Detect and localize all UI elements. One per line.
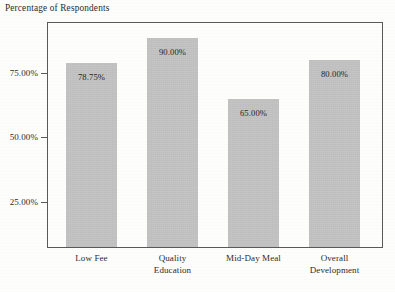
bar-value-label-low-fee: 78.75%: [66, 72, 117, 82]
bar-quality-education: 90.00%: [147, 38, 198, 247]
y-tick-mark-50: [41, 137, 48, 138]
x-axis-label-quality-education: Quality Education: [132, 253, 213, 276]
y-tick-label-75: 75.00%: [10, 68, 38, 78]
bar-overall-development: 80.00%: [309, 60, 360, 247]
y-tick-mark-25: [41, 202, 48, 203]
chart-title: Percentage of Respondents: [5, 3, 109, 13]
bar-mid-day-meal: 65.00%: [228, 99, 279, 247]
y-tick-label-50: 50.00%: [10, 132, 38, 142]
bar-value-label-overall-development: 80.00%: [309, 69, 360, 79]
y-tick-label-25: 25.00%: [10, 197, 38, 207]
x-axis-label-quality-education-line-2: Education: [132, 265, 213, 277]
bar-value-label-quality-education: 90.00%: [147, 47, 198, 57]
x-axis-label-overall-development-line-2: Development: [294, 265, 375, 277]
x-axis-label-mid-day-meal: Mid-Day Meal: [213, 253, 294, 265]
x-axis-label-low-fee: Low Fee: [51, 253, 132, 265]
x-axis-label-mid-day-meal-line-1: Mid-Day Meal: [213, 253, 294, 265]
bar-low-fee: 78.75%: [66, 63, 117, 247]
x-axis-label-overall-development: Overall Development: [294, 253, 375, 276]
y-tick-mark-75: [41, 73, 48, 74]
bar-value-label-mid-day-meal: 65.00%: [228, 108, 279, 118]
chart-screenshot: Percentage of Respondents 75.00% 50.00% …: [0, 0, 395, 292]
x-axis-label-overall-development-line-1: Overall: [294, 253, 375, 265]
x-axis-label-quality-education-line-1: Quality: [132, 253, 213, 265]
x-axis-label-low-fee-line-1: Low Fee: [51, 253, 132, 265]
